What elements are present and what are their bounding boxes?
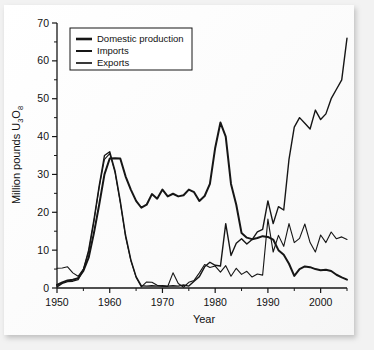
figure-root: 010203040506070 195019601970198019902000… [0, 0, 374, 350]
line-chart: 010203040506070 195019601970198019902000… [4, 5, 354, 335]
y-tick-label: 40 [37, 130, 49, 142]
y-tick-label: 20 [37, 206, 49, 218]
chart-card: 010203040506070 195019601970198019902000… [4, 5, 354, 335]
x-axis-title: Year [193, 313, 216, 325]
legend-label-1: Imports [97, 45, 129, 56]
series-line-imports [57, 38, 347, 287]
x-axis-tick-labels: 195019601970198019902000 [45, 296, 332, 308]
y-tick-label: 70 [37, 17, 49, 29]
y-tick-label: 60 [37, 54, 49, 66]
x-tick-label: 1980 [204, 296, 228, 308]
legend-label-0: Domestic production [97, 33, 184, 44]
y-tick-label: 50 [37, 92, 49, 104]
y-axis-title: Million pounds U3O8 [10, 106, 25, 204]
y-tick-label: 10 [37, 244, 49, 256]
x-tick-label: 1960 [98, 296, 122, 308]
series-line-domestic-production [57, 123, 347, 285]
x-tick-label: 1990 [256, 296, 280, 308]
y-axis-tick-labels: 010203040506070 [37, 17, 49, 294]
x-tick-label: 2000 [309, 296, 333, 308]
y-tick-label: 0 [43, 282, 49, 294]
y-tick-label: 30 [37, 168, 49, 180]
chart-legend: Domestic productionImportsExports [70, 28, 192, 70]
legend-label-2: Exports [97, 57, 129, 68]
x-tick-label: 1950 [45, 296, 69, 308]
x-tick-label: 1970 [151, 296, 175, 308]
data-series-group [57, 38, 347, 287]
